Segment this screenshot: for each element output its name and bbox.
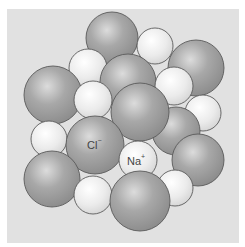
sodium-ion-sphere [74, 81, 112, 119]
chloride-ion-sphere [110, 171, 170, 231]
nacl-lattice-diagram [0, 0, 245, 247]
sodium-ion-sphere [74, 176, 112, 214]
chloride-ion-sphere [24, 151, 80, 207]
sodium-symbol: Na [127, 155, 141, 167]
chloride-ion-sphere [24, 66, 82, 124]
chloride-charge: − [97, 137, 101, 144]
sodium-ion-label: Na+ [127, 155, 145, 167]
chloride-ion-label: Cl− [87, 139, 101, 151]
sodium-charge: + [141, 153, 145, 160]
chloride-symbol: Cl [87, 139, 97, 151]
